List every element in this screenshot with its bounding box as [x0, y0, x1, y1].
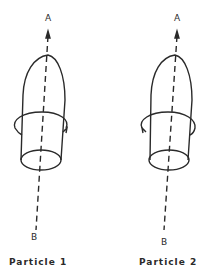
- particle-1-label-a: A: [45, 13, 51, 23]
- particle-2-rotation-ring: [141, 112, 195, 135]
- particle-2-drawing: [141, 31, 195, 230]
- particle-2-axis-arrowhead: [175, 31, 179, 38]
- particle-1-axis-arrowhead: [46, 31, 50, 38]
- particle-1-caption: Particle 1: [9, 257, 67, 267]
- particle-2-axis: [164, 36, 177, 230]
- particle-1-axis: [36, 36, 48, 230]
- particle-2-label-a: A: [174, 13, 180, 23]
- particle-2-label-b: B: [161, 237, 167, 247]
- particle-1-drawing: [14, 31, 67, 230]
- particle-2-body: [150, 55, 192, 160]
- particle-2-caption: Particle 2: [139, 257, 197, 267]
- particle-1-label-b: B: [31, 232, 37, 242]
